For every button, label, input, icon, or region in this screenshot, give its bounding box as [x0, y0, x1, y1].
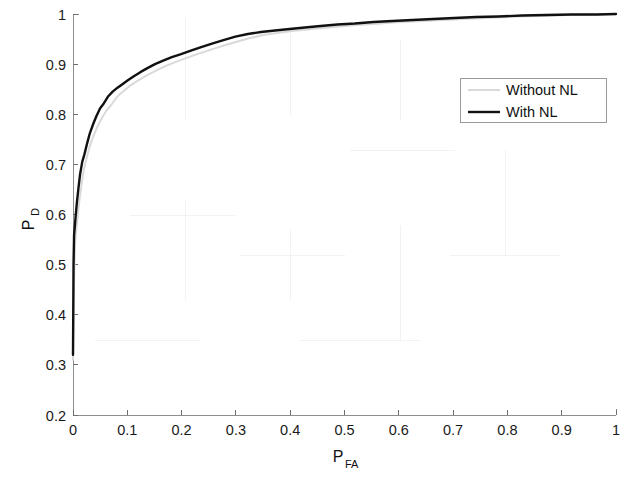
y-tick-label: 0.3	[46, 357, 66, 373]
x-tick-label: 0	[69, 422, 77, 438]
x-tick-label: 0.8	[497, 422, 517, 438]
x-tick-label: 0.4	[280, 422, 300, 438]
x-tick-label: 0.6	[389, 422, 409, 438]
x-tick-labels: 0 0.1 0.2 0.3 0.4 0.5 0.6 0.7 0.8 0.9 1	[69, 422, 620, 438]
x-axis-title-sub: FA	[345, 458, 359, 470]
y-axis-title-sub: D	[29, 208, 41, 216]
legend[interactable]: Without NL With NL	[461, 79, 607, 123]
y-tick-label: 0.9	[46, 57, 66, 73]
x-tick-label: 1	[612, 422, 620, 438]
x-axis-title: P FA	[333, 448, 359, 470]
roc-chart-canvas: 0.2 0.3 0.4 0.5 0.6 0.7 0.8 0.9 1 0 0.1 …	[0, 0, 639, 479]
y-axis-title-main: P	[20, 220, 37, 231]
y-tick-label: 1	[58, 7, 66, 23]
roc-figure: 0.2 0.3 0.4 0.5 0.6 0.7 0.8 0.9 1 0 0.1 …	[0, 0, 639, 479]
x-tick-label: 0.3	[226, 422, 246, 438]
x-axis-ticks	[73, 410, 616, 415]
y-tick-label: 0.5	[46, 257, 66, 273]
y-tick-label: 0.7	[46, 157, 66, 173]
legend-label-with-nl: With NL	[506, 104, 558, 120]
y-axis-title: P D	[20, 208, 41, 230]
y-tick-label: 0.2	[46, 408, 66, 424]
x-tick-label: 0.9	[552, 422, 572, 438]
y-tick-label: 0.8	[46, 107, 66, 123]
series-layer	[73, 14, 616, 360]
series-line-without-nl	[73, 14, 616, 360]
y-tick-labels: 0.2 0.3 0.4 0.5 0.6 0.7 0.8 0.9 1	[46, 7, 66, 424]
x-axis-title-main: P	[333, 448, 344, 465]
x-tick-label: 0.5	[334, 422, 354, 438]
x-tick-label: 0.1	[117, 422, 137, 438]
y-tick-label: 0.6	[46, 207, 66, 223]
x-tick-label: 0.2	[172, 422, 192, 438]
x-tick-label: 0.7	[443, 422, 463, 438]
y-tick-label: 0.4	[46, 307, 66, 323]
series-line-with-nl	[73, 14, 616, 355]
legend-label-without-nl: Without NL	[506, 82, 578, 98]
